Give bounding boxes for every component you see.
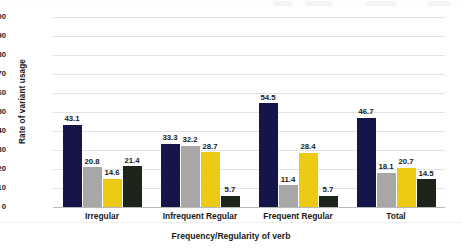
y-tick-label-9: 10 bbox=[0, 184, 6, 192]
bar bbox=[417, 179, 436, 207]
bar bbox=[161, 144, 180, 207]
bar bbox=[123, 166, 142, 207]
bar bbox=[63, 125, 82, 207]
bar bbox=[319, 196, 338, 207]
x-tick-label-1: Infrequent Regular bbox=[151, 211, 249, 221]
y-tick-label-6: 40 bbox=[0, 127, 6, 135]
bar-value-label: 5.7 bbox=[316, 186, 341, 194]
bar-value-label: 28.7 bbox=[198, 143, 223, 151]
y-tick-label-2: 80 bbox=[0, 51, 6, 59]
bar-value-label: 20.7 bbox=[394, 158, 419, 166]
bar-value-label: 5.7 bbox=[218, 186, 243, 194]
plot-area: 43.120.814.621.433.332.228.75.754.511.42… bbox=[53, 17, 445, 207]
bar bbox=[299, 153, 318, 207]
x-tick-label-2: Frequent Regular bbox=[249, 211, 347, 221]
x-tick-label-3: Total bbox=[347, 211, 445, 221]
y-tick-label-8: 20 bbox=[0, 165, 6, 173]
bar bbox=[201, 152, 220, 207]
bar-group: 46.718.120.714.5 bbox=[347, 17, 445, 207]
bar-value-label: 11.4 bbox=[276, 176, 301, 184]
y-tick-label-3: 70 bbox=[0, 70, 6, 78]
y-axis-title: Rate of variant usage bbox=[18, 37, 27, 167]
footer-divider bbox=[0, 222, 462, 223]
bar-value-label: 43.1 bbox=[60, 115, 85, 123]
bar-value-label: 54.5 bbox=[256, 94, 281, 102]
cropped-legend-strip bbox=[0, 0, 462, 8]
bar-group: 33.332.228.75.7 bbox=[151, 17, 249, 207]
gridline bbox=[53, 207, 445, 208]
x-axis-title: Frequency/Regularity of verb bbox=[0, 231, 462, 241]
y-tick-label-4: 60 bbox=[0, 89, 6, 97]
bar-value-label: 14.6 bbox=[100, 169, 125, 177]
bar-chart: Rate of variant usage 43.120.814.621.433… bbox=[0, 0, 462, 249]
bar-value-label: 46.7 bbox=[354, 108, 379, 116]
bar-value-label: 20.8 bbox=[80, 158, 105, 166]
bar bbox=[181, 146, 200, 207]
bar-value-label: 21.4 bbox=[120, 157, 145, 165]
bar bbox=[377, 173, 396, 207]
y-tick-label-1: 90 bbox=[0, 32, 6, 40]
bar bbox=[259, 103, 278, 207]
bar bbox=[103, 179, 122, 207]
y-tick-label-0: 100 bbox=[0, 13, 6, 21]
y-tick-label-5: 50 bbox=[0, 108, 6, 116]
bar bbox=[279, 185, 298, 207]
bar-value-label: 28.4 bbox=[296, 143, 321, 151]
bar bbox=[221, 196, 240, 207]
y-tick-label-10: 0 bbox=[0, 203, 6, 211]
bar-group: 54.511.428.45.7 bbox=[249, 17, 347, 207]
x-tick-label-0: Irregular bbox=[53, 211, 151, 221]
bar-group: 43.120.814.621.4 bbox=[53, 17, 151, 207]
bar-value-label: 14.5 bbox=[414, 170, 439, 178]
y-tick-label-7: 30 bbox=[0, 146, 6, 154]
